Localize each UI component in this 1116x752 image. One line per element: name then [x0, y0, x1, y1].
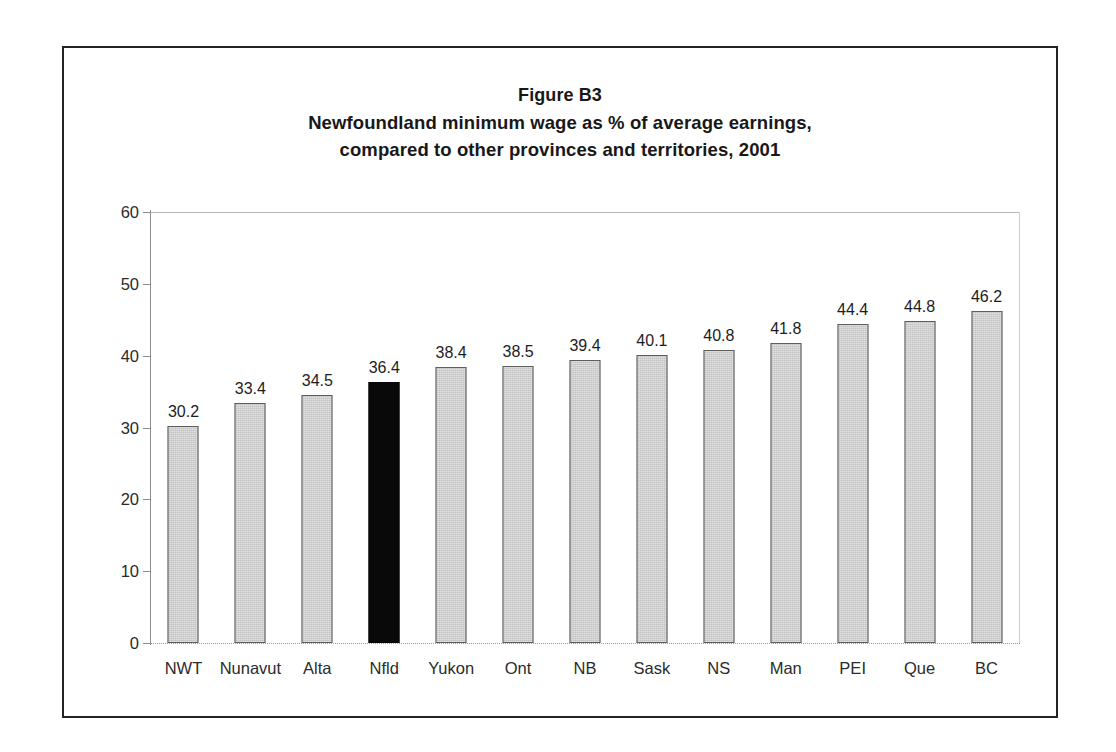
bar-pei[interactable]: 44.4 — [837, 324, 868, 643]
y-axis-tick-mark — [143, 284, 150, 285]
bar-group: 41.8Man — [752, 212, 819, 643]
figure-frame: Figure B3 Newfoundland minimum wage as %… — [62, 46, 1058, 718]
bar-group: 30.2NWT — [150, 212, 217, 643]
bar-value-label: 39.4 — [569, 337, 600, 355]
bar-group: 44.8Que — [886, 212, 953, 643]
x-axis-category-label: NS — [707, 659, 730, 678]
bar-value-label: 34.5 — [302, 372, 333, 390]
bar-group: 36.4Nfld — [351, 212, 418, 643]
y-axis-tick-label: 60 — [121, 203, 139, 222]
x-axis-line — [150, 643, 1020, 644]
bar-bc[interactable]: 46.2 — [971, 311, 1002, 643]
bar-value-label: 38.5 — [502, 343, 533, 361]
y-axis-tick-mark — [143, 212, 150, 213]
figure-title: Figure B3 Newfoundland minimum wage as %… — [64, 82, 1056, 163]
bar-value-label: 30.2 — [168, 403, 199, 421]
x-axis-category-label: NB — [574, 659, 597, 678]
bar-group: 39.4NB — [552, 212, 619, 643]
title-line-3: compared to other provinces and territor… — [64, 136, 1056, 163]
bar-ont[interactable]: 38.5 — [503, 366, 534, 643]
chart-plot-area: 0102030405060 30.2NWT33.4Nunavut34.5Alta… — [150, 212, 1020, 643]
x-axis-category-label: Nunavut — [220, 659, 281, 678]
bar-nfld[interactable]: 36.4 — [369, 382, 400, 643]
bar-group: 34.5Alta — [284, 212, 351, 643]
x-axis-category-label: Nfld — [370, 659, 399, 678]
x-axis-category-label: NWT — [165, 659, 203, 678]
y-axis-tick-label: 20 — [121, 490, 139, 509]
y-axis-tick-mark — [143, 643, 150, 644]
bar-man[interactable]: 41.8 — [770, 343, 801, 643]
bar-group: 38.5Ont — [485, 212, 552, 643]
x-axis-category-label: BC — [975, 659, 998, 678]
bar-group: 33.4Nunavut — [217, 212, 284, 643]
y-axis-tick-label: 40 — [121, 346, 139, 365]
x-axis-category-label: PEI — [839, 659, 866, 678]
bar-nunavut[interactable]: 33.4 — [235, 403, 266, 643]
x-axis-category-label: Sask — [634, 659, 671, 678]
bar-group: 40.1Sask — [618, 212, 685, 643]
bar-value-label: 36.4 — [369, 359, 400, 377]
bar-nb[interactable]: 39.4 — [569, 360, 600, 643]
y-axis-tick-label: 30 — [121, 418, 139, 437]
bar-value-label: 44.8 — [904, 298, 935, 316]
y-axis-tick-mark — [143, 356, 150, 357]
bar-nwt[interactable]: 30.2 — [168, 426, 199, 643]
y-axis-tick-label: 10 — [121, 562, 139, 581]
y-axis-tick-mark — [143, 571, 150, 572]
title-line-2: Newfoundland minimum wage as % of averag… — [64, 109, 1056, 136]
bar-value-label: 46.2 — [971, 288, 1002, 306]
bar-yukon[interactable]: 38.4 — [436, 367, 467, 643]
bar-series: 30.2NWT33.4Nunavut34.5Alta36.4Nfld38.4Yu… — [150, 212, 1020, 643]
bar-group: 44.4PEI — [819, 212, 886, 643]
x-axis-category-label: Ont — [505, 659, 532, 678]
bar-group: 38.4Yukon — [418, 212, 485, 643]
y-axis-tick-label: 0 — [130, 634, 139, 653]
bar-sask[interactable]: 40.1 — [636, 355, 667, 643]
bar-alta[interactable]: 34.5 — [302, 395, 333, 643]
bar-group: 40.8NS — [685, 212, 752, 643]
y-axis-tick-label: 50 — [121, 274, 139, 293]
bar-value-label: 44.4 — [837, 301, 868, 319]
y-axis-tick-mark — [143, 499, 150, 500]
bar-value-label: 38.4 — [436, 344, 467, 362]
x-axis-category-label: Alta — [303, 659, 331, 678]
bar-group: 46.2BC — [953, 212, 1020, 643]
bar-ns[interactable]: 40.8 — [703, 350, 734, 643]
bar-value-label: 40.1 — [636, 332, 667, 350]
x-axis-category-label: Que — [904, 659, 935, 678]
y-axis-tick-mark — [143, 428, 150, 429]
bar-value-label: 33.4 — [235, 380, 266, 398]
title-line-1: Figure B3 — [64, 82, 1056, 109]
bar-value-label: 40.8 — [703, 327, 734, 345]
x-axis-category-label: Man — [770, 659, 802, 678]
x-axis-category-label: Yukon — [428, 659, 474, 678]
bar-que[interactable]: 44.8 — [904, 321, 935, 643]
bar-value-label: 41.8 — [770, 320, 801, 338]
